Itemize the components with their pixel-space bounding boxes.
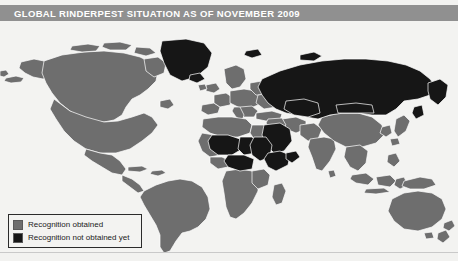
page-title: GLOBAL RINDERPEST SITUATION AS OF NOVEMB… [0, 8, 300, 19]
region-france-lowlands [214, 93, 232, 107]
figure-title-bar: GLOBAL RINDERPEST SITUATION AS OF NOVEMB… [0, 5, 458, 21]
region-tasmania [424, 232, 434, 239]
legend-swatch-recognition-not-obtained [13, 233, 23, 243]
legend-swatch-recognition-obtained [13, 220, 23, 230]
rinderpest-map-figure: GLOBAL RINDERPEST SITUATION AS OF NOVEMB… [0, 0, 458, 261]
legend-label-recognition-not-obtained: Recognition not obtained yet [28, 233, 129, 242]
legend-item-recognition-obtained: Recognition obtained [13, 218, 137, 231]
map-legend: Recognition obtained Recognition not obt… [8, 214, 142, 248]
region-mongolia [336, 103, 374, 113]
legend-item-recognition-not-obtained: Recognition not obtained yet [13, 231, 137, 244]
legend-label-recognition-obtained: Recognition obtained [28, 220, 103, 229]
bottom-divider [0, 252, 458, 253]
